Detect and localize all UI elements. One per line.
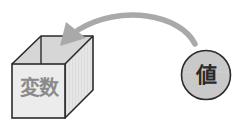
variable-assignment-diagram: 変数 値 bbox=[0, 0, 245, 124]
variable-label: 変数 bbox=[12, 76, 65, 100]
value-label: 値 bbox=[181, 62, 231, 88]
